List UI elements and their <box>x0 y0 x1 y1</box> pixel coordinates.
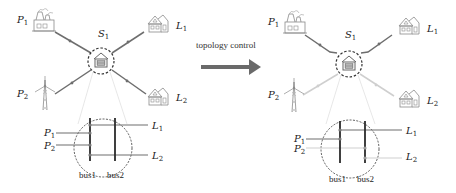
line-p1-s1 <box>305 35 337 53</box>
panel-after: S1 P1 L1 P2 L2 P1 P2 L1 L2 bus1 bus2 <box>267 11 438 184</box>
flow-arrow-icon <box>319 44 322 47</box>
flow-arrow-icon <box>71 82 74 85</box>
breaker-closed <box>363 146 366 149</box>
breaker-closed <box>363 156 366 159</box>
breaker-closed <box>338 128 341 131</box>
flow-arrow-icon <box>375 84 378 87</box>
house-icon <box>399 17 419 34</box>
detail-output-l2: L2 <box>151 150 163 163</box>
zoom-guide-line <box>110 72 127 124</box>
detail-circle <box>74 119 132 177</box>
flow-arrow-icon <box>126 80 129 83</box>
load-label-l2: L2 <box>426 95 438 108</box>
house-icon <box>148 15 168 32</box>
flow-arrow-icon <box>378 43 381 46</box>
wind-turbine-icon <box>35 76 55 110</box>
detail-output-l1: L1 <box>151 120 163 133</box>
detail-circle <box>321 120 379 178</box>
topology-diagram: S1 P1 L1 P2 L2 P1 P2 L1 L2 bus1 bus2 top… <box>0 0 456 193</box>
load-label-l1: L1 <box>175 20 187 33</box>
breaker-closed <box>88 123 91 126</box>
power-plant-icon <box>32 9 56 31</box>
flow-arrow-icon <box>317 85 320 88</box>
source-label-p2: P2 <box>267 89 279 102</box>
topology-control-arrow: topology control <box>196 40 261 75</box>
house-icon <box>148 88 168 105</box>
source-label-p2: P2 <box>16 88 28 101</box>
source-label-p1: P1 <box>267 16 279 29</box>
breaker-closed <box>338 137 341 140</box>
flow-arrow-icon <box>69 40 72 43</box>
load-label-l1: L1 <box>426 23 438 36</box>
detail-output-l1: L1 <box>405 125 417 138</box>
line-p1-s1 <box>55 32 91 53</box>
bus2-label: bus2 <box>357 174 374 184</box>
house-icon <box>399 90 419 107</box>
source-label-p1: P1 <box>16 14 28 27</box>
power-plant-icon <box>283 11 307 33</box>
breaker-closed <box>88 131 91 134</box>
breaker-closed <box>88 143 91 146</box>
zoom-guide-line <box>326 75 341 124</box>
arrow-head-icon <box>249 59 261 75</box>
zoom-guide-line <box>78 72 93 124</box>
arrow-shaft <box>201 65 251 69</box>
detail-output-l2: L2 <box>405 151 417 164</box>
arrow-label: topology control <box>196 40 256 50</box>
line-p2-s1 <box>55 70 91 94</box>
bus2-label: bus2 <box>107 170 124 180</box>
breaker-closed <box>88 153 91 156</box>
wind-turbine-icon <box>284 78 304 112</box>
detail-input-p1: P1 <box>43 127 55 140</box>
substation-label: S1 <box>345 29 356 42</box>
line-p2-s1 <box>303 74 338 95</box>
panel-before: S1 P1 L1 P2 L2 P1 P2 L1 L2 bus1 bus2 <box>16 9 187 180</box>
line-s1-l1 <box>361 35 392 53</box>
substation-label: S1 <box>98 28 109 41</box>
load-label-l2: L2 <box>175 92 187 105</box>
bus1-label: bus1 <box>79 170 96 180</box>
line-s1-l2 <box>112 70 146 94</box>
flow-arrow-icon <box>127 41 130 44</box>
detail-input-p2: P2 <box>43 140 55 153</box>
bus1-label: bus1 <box>329 174 346 184</box>
